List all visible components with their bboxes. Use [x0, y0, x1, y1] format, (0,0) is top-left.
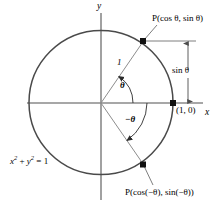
leader-line-upper [144, 25, 157, 40]
x-axis-label: x [205, 108, 209, 118]
angle-theta-label: θ [120, 81, 125, 90]
radius-length-label: 1 [117, 58, 122, 67]
figure-canvas [0, 0, 221, 208]
sine-measure-label: sin θ [172, 66, 189, 75]
point-one-zero-label: (1, 0) [176, 106, 196, 115]
point-marker-p-upper [140, 38, 146, 44]
point-label-p-upper: P(cos θ, sin θ) [152, 14, 203, 23]
equation-equals-one: = 1 [34, 156, 48, 166]
radius-ray-upper [101, 41, 144, 103]
radius-ray-lower [101, 103, 144, 165]
leader-line-lower [144, 166, 153, 185]
point-label-p-lower: P(cos(−θ), sin(−θ)) [125, 188, 194, 197]
angle-negative-theta-label: −θ [125, 115, 135, 124]
equation-plus: + [17, 156, 27, 166]
unit-circle-figure: y x P(cos θ, sin θ) P(cos(−θ), sin(−θ)) … [0, 0, 221, 208]
y-axis-label: y [97, 2, 101, 12]
point-marker-p-lower [140, 162, 146, 168]
circle-equation-label: x2 + y2 = 1 [10, 155, 48, 166]
